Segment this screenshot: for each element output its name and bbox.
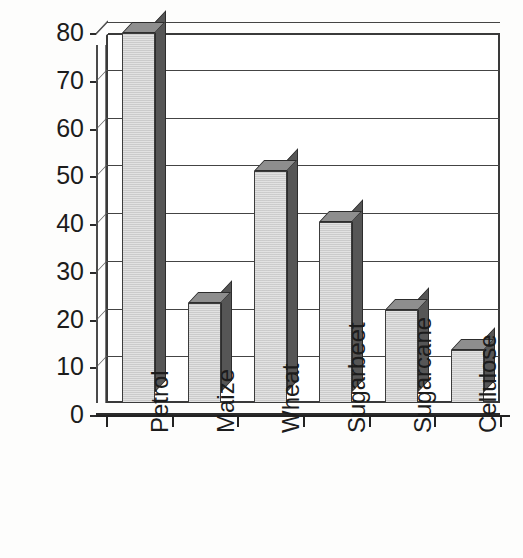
y-tick-label: 10 (38, 354, 84, 379)
y-tick-label: 20 (38, 307, 84, 332)
bar-slot (106, 33, 172, 403)
bar-side-face (287, 149, 298, 392)
axis-side-wall-face (96, 45, 106, 403)
bar-front-face (122, 33, 155, 403)
x-category-label: Wheat (279, 364, 303, 433)
bar-side-face (155, 10, 166, 392)
y-tick-label: 50 (38, 163, 84, 188)
y-tick-label: 0 (38, 402, 84, 427)
x-category-label: Sugarbeet (345, 322, 369, 433)
bar (122, 33, 155, 403)
bar-series (106, 33, 500, 403)
x-category-label: Maize (214, 369, 238, 433)
y-tick-label: 30 (38, 259, 84, 284)
y-tick-label: 80 (38, 20, 84, 45)
y-tick-label: 40 (38, 211, 84, 236)
bar-chart-figure: g CO2/MJ 01020304050607080 PetrolMaizeWh… (0, 0, 523, 558)
bar-slot (237, 33, 303, 403)
x-tick-mark (106, 415, 108, 427)
x-category-label: Sugarcane (411, 317, 435, 433)
x-category-label: Cellulose (476, 334, 500, 433)
plot-area (96, 33, 500, 415)
y-tick-label: 60 (38, 116, 84, 141)
bar-slot (172, 33, 238, 403)
x-category-label: Petrol (148, 370, 172, 433)
y-axis-tick-labels: 01020304050607080 (18, 0, 84, 558)
y-tick-label: 70 (38, 68, 84, 93)
